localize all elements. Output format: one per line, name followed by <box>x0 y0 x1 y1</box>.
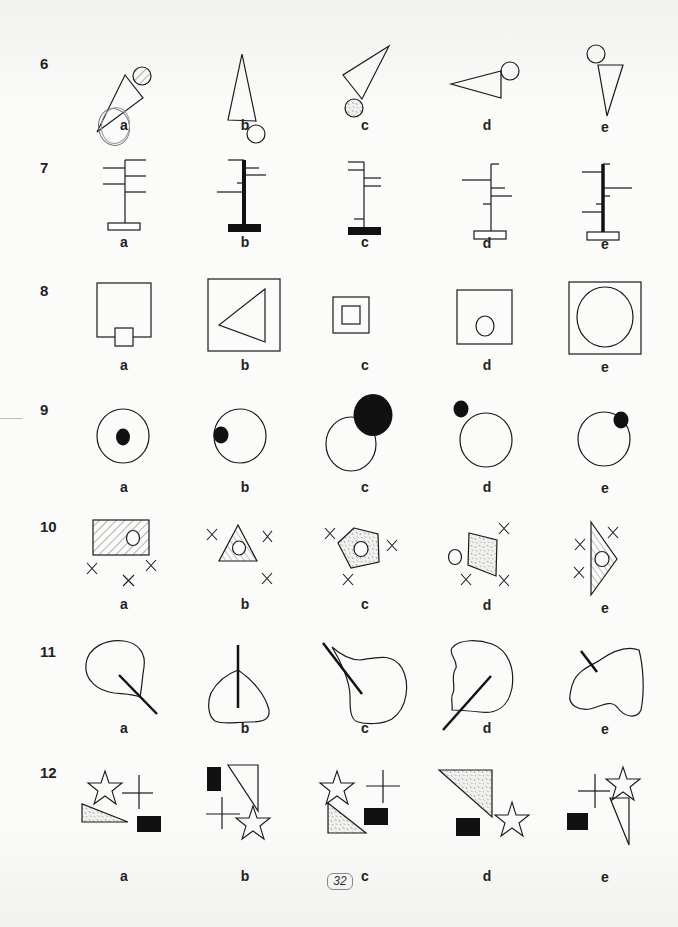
option-7a-figure[interactable] <box>100 158 150 233</box>
option-label[interactable]: e <box>595 869 615 885</box>
option-label[interactable]: b <box>235 868 255 884</box>
option-10e-figure[interactable] <box>571 520 641 600</box>
option-12b-figure[interactable] <box>204 764 279 859</box>
option-label[interactable]: d <box>477 117 497 133</box>
question-number: 8 <box>40 282 48 299</box>
option-9b-figure[interactable] <box>213 408 273 468</box>
option-label[interactable]: c <box>355 868 375 884</box>
option-label[interactable]: d <box>477 357 497 373</box>
option-11b-figure[interactable] <box>205 638 275 728</box>
option-label[interactable]: c <box>355 720 375 736</box>
option-7b-figure[interactable] <box>215 158 270 233</box>
margin-mark <box>0 418 22 419</box>
option-label[interactable]: a <box>114 720 134 736</box>
option-label[interactable]: e <box>595 119 615 135</box>
option-10b-figure[interactable] <box>205 523 280 593</box>
question-number: 12 <box>40 764 57 781</box>
option-label[interactable]: e <box>595 236 615 252</box>
option-label[interactable]: d <box>477 479 497 495</box>
option-8c-figure[interactable] <box>332 296 372 336</box>
option-label[interactable]: e <box>595 600 615 616</box>
option-7d-figure[interactable] <box>460 160 520 240</box>
option-6e-figure[interactable] <box>580 40 640 120</box>
question-number: 7 <box>40 159 48 176</box>
option-label[interactable]: d <box>477 235 497 251</box>
option-10c-figure[interactable] <box>323 523 413 593</box>
option-label[interactable]: e <box>595 359 615 375</box>
option-12d-figure[interactable] <box>437 769 527 854</box>
option-12a-figure[interactable] <box>80 770 170 840</box>
question-number: 6 <box>40 55 48 72</box>
option-label[interactable]: b <box>235 720 255 736</box>
option-11d-figure[interactable] <box>440 638 530 728</box>
option-label[interactable]: a <box>114 479 134 495</box>
option-label[interactable]: c <box>355 117 375 133</box>
option-10a-figure[interactable] <box>84 518 164 598</box>
option-11e-figure[interactable] <box>565 645 645 725</box>
option-label[interactable]: b <box>235 117 255 133</box>
option-8e-figure[interactable] <box>568 281 643 359</box>
option-label[interactable]: a <box>114 357 134 373</box>
question-number: 10 <box>40 518 57 535</box>
option-label[interactable]: d <box>477 868 497 884</box>
option-label[interactable]: a <box>114 117 134 133</box>
option-8b-figure[interactable] <box>207 278 282 358</box>
option-label[interactable]: e <box>595 480 615 496</box>
page-number: 32 <box>327 873 353 890</box>
option-label[interactable]: a <box>114 868 134 884</box>
option-8d-figure[interactable] <box>456 289 516 349</box>
option-9c-figure[interactable] <box>326 390 401 475</box>
option-label[interactable]: a <box>114 596 134 612</box>
option-11c-figure[interactable] <box>320 638 410 728</box>
option-label[interactable]: b <box>235 479 255 495</box>
option-label[interactable]: c <box>355 234 375 250</box>
option-label[interactable]: b <box>235 234 255 250</box>
option-label[interactable]: d <box>477 720 497 736</box>
option-6d-figure[interactable] <box>448 60 528 110</box>
option-label[interactable]: c <box>355 357 375 373</box>
option-label[interactable]: d <box>477 597 497 613</box>
question-number: 11 <box>40 643 56 660</box>
option-12e-figure[interactable] <box>565 766 645 856</box>
option-12c-figure[interactable] <box>318 770 408 850</box>
option-label[interactable]: b <box>235 357 255 373</box>
option-8a-figure[interactable] <box>96 282 156 352</box>
option-9a-figure[interactable] <box>96 408 156 468</box>
option-11a-figure[interactable] <box>84 639 164 719</box>
option-9e-figure[interactable] <box>574 403 644 473</box>
option-label[interactable]: b <box>235 596 255 612</box>
option-7e-figure[interactable] <box>580 160 640 240</box>
option-9d-figure[interactable] <box>448 400 518 475</box>
question-number: 9 <box>40 401 48 418</box>
option-label[interactable]: c <box>355 479 375 495</box>
option-label[interactable]: a <box>114 234 134 250</box>
option-7c-figure[interactable] <box>345 158 390 238</box>
option-label[interactable]: e <box>595 721 615 737</box>
option-label[interactable]: c <box>355 596 375 612</box>
option-10d-figure[interactable] <box>446 520 521 590</box>
